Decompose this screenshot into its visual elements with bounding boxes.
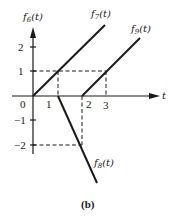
x-tick-2: 2 xyxy=(86,98,92,110)
x-axis-arrow-icon xyxy=(149,93,160,99)
figure-caption: (b) xyxy=(81,198,95,211)
y-axis-arrow-icon xyxy=(30,27,36,38)
label-f9: f9(t) xyxy=(130,23,151,36)
x-tick-3: 3 xyxy=(103,99,109,111)
y-axis-label: f6(t) xyxy=(22,11,43,24)
curve-f9 xyxy=(82,38,140,96)
label-f7: f7(t) xyxy=(90,8,111,21)
x-axis-label: t xyxy=(162,90,167,101)
y-tick-neg2: −2 xyxy=(14,139,26,151)
x-tick-1: 1 xyxy=(46,98,52,110)
y-tick-1: 1 xyxy=(18,65,24,77)
signal-diagram: f6(t) f7(t) f9(t) f8(t) t 0 1 2 3 2 1 −1… xyxy=(0,0,174,217)
curve-f7 xyxy=(33,25,105,96)
x-tick-0: 0 xyxy=(20,98,26,110)
y-tick-2: 2 xyxy=(18,41,24,53)
label-f8: f8(t) xyxy=(93,157,114,170)
y-tick-neg1: −1 xyxy=(14,114,26,126)
